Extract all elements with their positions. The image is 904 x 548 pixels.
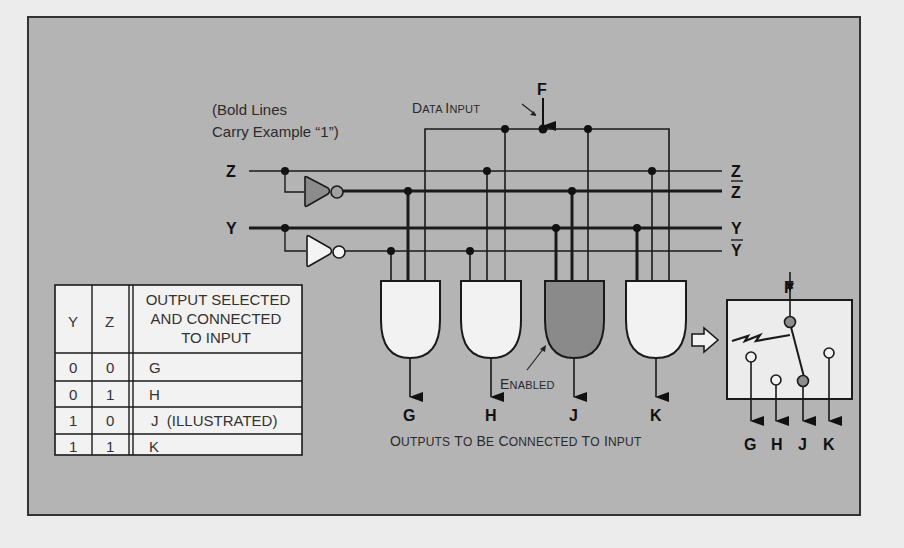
table-header-output-line3: TO INPUT (181, 329, 251, 346)
bold-lines-note-line2: Carry Example “1”) (212, 123, 339, 140)
table-header-output: OUTPUT SELECTED (146, 291, 291, 308)
svg-text:1: 1 (106, 438, 114, 455)
switch-output-k: K (823, 436, 835, 453)
svg-text:1: 1 (69, 412, 77, 429)
input-z-label: Z (226, 163, 236, 180)
output-label-h: H (485, 407, 497, 424)
output-label-g: G (403, 407, 415, 424)
switch-output-g: G (744, 436, 756, 453)
svg-text:1: 1 (69, 438, 77, 455)
svg-text:1: 1 (106, 386, 114, 403)
bus-label-y: Y (731, 220, 742, 237)
bold-lines-note-line1: (Bold Lines (212, 101, 287, 118)
truth-table: Y Z OUTPUT SELECTED AND CONNECTED TO INP… (55, 285, 302, 455)
table-header-output-line2: AND CONNECTED (151, 310, 282, 327)
data-input-f-label: F (537, 81, 547, 98)
svg-text:H: H (149, 386, 160, 403)
svg-text:0: 0 (106, 412, 114, 429)
demultiplexer-figure: (Bold Lines Carry Example “1”) DATA INPU… (0, 0, 904, 548)
bus-label-z-bar: Z (731, 184, 741, 201)
svg-text:G: G (149, 359, 161, 376)
svg-text:J (ILLUSTRATED): J (ILLUSTRATED) (151, 412, 277, 429)
outputs-caption: OUTPUTS TO BE CONNECTED TO INPUT (390, 433, 642, 449)
svg-text:DATA INPUT: DATA INPUT (412, 100, 480, 116)
output-label-k: K (650, 407, 662, 424)
switch-output-j: J (798, 436, 807, 453)
table-header-z: Z (105, 313, 114, 330)
and-gate-g (381, 281, 440, 358)
input-y-label: Y (226, 220, 237, 237)
and-gate-k (626, 281, 686, 358)
table-header-y: Y (68, 313, 78, 330)
and-gate-h (461, 281, 521, 358)
svg-text:0: 0 (69, 386, 77, 403)
bus-label-z: Z (731, 163, 741, 180)
svg-text:0: 0 (106, 359, 114, 376)
bus-label-y-bar: Y (731, 242, 742, 259)
svg-text:K: K (149, 438, 159, 455)
and-gate-j-enabled (545, 281, 604, 358)
svg-text:ENABLED: ENABLED (500, 376, 555, 392)
svg-text:0: 0 (69, 359, 77, 376)
output-label-j: J (569, 407, 578, 424)
switch-output-h: H (771, 436, 783, 453)
